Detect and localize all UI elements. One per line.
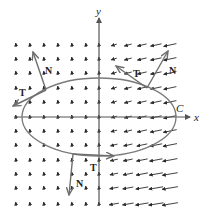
field-vector	[86, 86, 87, 90]
field-vector	[30, 129, 31, 133]
field-vector	[110, 159, 118, 161]
field-vector	[86, 143, 87, 147]
field-vector	[86, 172, 87, 176]
field-vector	[86, 71, 87, 75]
field-vector	[16, 129, 17, 133]
field-vector	[30, 43, 31, 47]
axes: x y	[14, 5, 199, 206]
field-vector	[72, 100, 73, 104]
field-vector	[72, 129, 73, 133]
field-vector	[16, 71, 17, 75]
field-vector	[124, 87, 131, 89]
field-vector	[58, 143, 59, 147]
vector-field	[16, 43, 178, 206]
normal-label: N	[76, 178, 84, 189]
field-vector	[30, 143, 31, 147]
field-vector	[30, 57, 31, 61]
frame-bottom: T N	[69, 154, 114, 195]
field-vector	[86, 100, 87, 104]
field-vector	[124, 144, 133, 146]
field-vector	[44, 43, 45, 47]
field-vector	[16, 172, 17, 176]
field-vector	[58, 172, 59, 176]
field-vector	[136, 173, 148, 175]
field-vector	[162, 173, 177, 176]
field-vector	[44, 158, 45, 162]
field-vector	[72, 86, 73, 90]
curve-label: C	[176, 102, 184, 114]
field-vector	[150, 130, 162, 132]
field-vector	[123, 173, 133, 175]
field-vector	[30, 202, 31, 206]
field-vector	[16, 57, 17, 61]
normal-vector	[147, 51, 168, 88]
field-vector	[72, 43, 73, 47]
field-vector	[16, 43, 17, 47]
field-vector	[16, 86, 17, 90]
field-vector	[72, 143, 73, 147]
frame-upper-right: T N	[116, 51, 177, 88]
field-vector	[86, 186, 87, 190]
field-vector	[30, 158, 31, 162]
field-vector	[30, 86, 31, 90]
tangent-label: T	[19, 87, 26, 98]
field-vector	[86, 43, 87, 47]
field-vector	[163, 159, 178, 162]
field-vector	[58, 186, 59, 190]
field-vector	[16, 158, 17, 162]
field-vector	[44, 100, 45, 104]
tangent-normal-frames: T N T N T N	[13, 51, 177, 195]
tangent-vector	[73, 154, 114, 156]
tangent-vector	[13, 90, 46, 106]
field-vector	[30, 172, 31, 176]
field-vector	[111, 72, 117, 74]
field-vector	[16, 100, 17, 104]
field-vector	[111, 130, 117, 132]
field-vector	[137, 101, 146, 103]
field-vector	[44, 202, 45, 206]
field-vector	[136, 187, 148, 189]
tangent-vector	[116, 66, 147, 88]
field-vector	[44, 186, 45, 190]
field-vector	[136, 203, 149, 205]
field-vector	[86, 202, 87, 206]
field-vector	[149, 187, 163, 189]
field-vector	[150, 159, 163, 161]
field-vector	[109, 203, 119, 205]
field-vector	[137, 44, 146, 46]
field-vector	[137, 130, 147, 132]
field-vector	[123, 159, 132, 161]
field-vector	[124, 130, 132, 132]
field-vector	[58, 86, 59, 90]
field-vector	[72, 202, 73, 206]
field-vector	[164, 44, 177, 47]
field-vector	[124, 101, 131, 103]
field-vector	[58, 100, 59, 104]
x-axis-label: x	[193, 111, 199, 123]
field-vector	[86, 158, 87, 162]
field-vector	[58, 202, 59, 206]
field-vector	[44, 172, 45, 176]
field-vector	[163, 144, 177, 147]
field-vector	[30, 186, 31, 190]
field-vector	[16, 202, 17, 206]
field-vector	[123, 187, 134, 189]
field-vector	[162, 187, 178, 190]
field-vector	[124, 58, 131, 60]
field-vector	[16, 143, 17, 147]
field-vector	[110, 173, 118, 175]
tangent-label: T	[133, 68, 140, 79]
vector-field-diagram: x y C T N T N T N	[0, 0, 207, 218]
field-vector	[111, 144, 118, 146]
field-vector	[72, 71, 73, 75]
tangent-label: T	[90, 162, 97, 173]
field-vector	[110, 187, 119, 189]
normal-label: N	[45, 65, 53, 76]
field-vector	[72, 57, 73, 61]
field-vector	[164, 58, 177, 61]
field-vector	[151, 44, 162, 46]
field-vector	[30, 71, 31, 75]
field-vector	[86, 129, 87, 133]
field-vector	[122, 203, 133, 205]
y-axis-label: y	[95, 5, 101, 17]
